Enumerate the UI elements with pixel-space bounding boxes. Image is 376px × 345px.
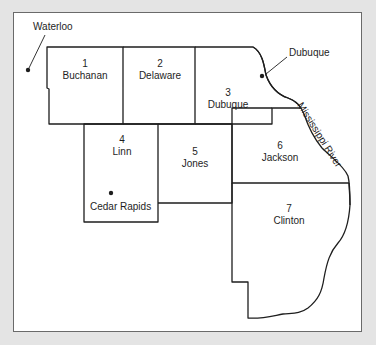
city-label-dubuque: Dubuque xyxy=(289,47,330,59)
county-name: Dubuque xyxy=(208,99,249,111)
county-name: Buchanan xyxy=(62,70,107,82)
county-number: 5 xyxy=(182,146,209,158)
county-name: Delaware xyxy=(139,70,181,82)
county-number: 6 xyxy=(262,140,299,152)
county-label-jackson: 6 Jackson xyxy=(262,140,299,164)
county-label-buchanan: 1 Buchanan xyxy=(62,58,107,82)
dubuque-leader-line xyxy=(266,57,287,74)
county-label-dubuque: 3 Dubuque xyxy=(208,87,249,111)
county-name: Jackson xyxy=(262,152,299,164)
county-number: 7 xyxy=(273,203,304,215)
county-name: Linn xyxy=(113,146,132,158)
county-name: Clinton xyxy=(273,215,304,227)
county-name: Jones xyxy=(182,158,209,170)
city-label-cedar-rapids: Cedar Rapids xyxy=(90,201,151,213)
city-label-waterloo: Waterloo xyxy=(33,21,73,33)
waterloo-leader-line xyxy=(29,35,45,68)
county-label-jones: 5 Jones xyxy=(182,146,209,170)
county-label-clinton: 7 Clinton xyxy=(273,203,304,227)
county-number: 4 xyxy=(113,134,132,146)
cedar-rapids-dot xyxy=(109,191,113,195)
county-number: 3 xyxy=(208,87,249,99)
waterloo-dot xyxy=(26,68,30,72)
county-number: 2 xyxy=(139,58,181,70)
county-number: 1 xyxy=(62,58,107,70)
county-label-linn: 4 Linn xyxy=(113,134,132,158)
county-label-delaware: 2 Delaware xyxy=(139,58,181,82)
mississippi-river-line xyxy=(253,47,350,205)
river-label: Mississippi River xyxy=(295,100,344,170)
dubuque-city-dot xyxy=(260,74,264,78)
